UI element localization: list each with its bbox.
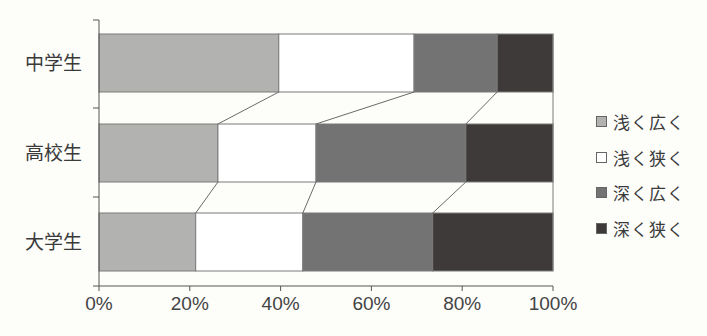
legend-item: 深く狭く [596,211,685,247]
x-tick-label: 100% [529,293,578,314]
bar-segment [497,34,553,92]
bar-segment [316,124,466,182]
legend-item: 深く広く [596,175,685,211]
bar-segment [99,213,196,271]
legend: 浅く広く 浅く狭く 深く広く 深く狭く [596,104,685,246]
bar-segment [433,213,553,271]
bar-segment [303,213,433,271]
x-tick-label: 80% [443,293,481,314]
connector-line [218,92,279,124]
bar-segment [99,124,218,182]
category-labels: 中学生高校生大学生 [25,52,82,253]
legend-label: 浅く広く [613,109,685,134]
legend-label: 浅く狭く [613,145,685,170]
legend-swatch-icon [596,187,607,198]
x-tick-label: 60% [352,293,390,314]
connector-line [466,92,497,124]
x-tick-label: 0% [85,293,113,314]
x-tick-label: 20% [171,293,209,314]
category-label: 中学生 [25,52,82,74]
bars-group [99,34,553,271]
category-label: 高校生 [25,142,82,164]
x-tick-labels: 0%20%40%60%80%100% [85,293,577,314]
legend-label: 深く広く [613,180,685,205]
legend-item: 浅く狭く [596,140,685,176]
bar-segment [218,124,316,182]
connector-line [316,92,414,124]
legend-item: 浅く広く [596,104,685,140]
legend-label: 深く狭く [613,216,685,241]
bar-segment [414,34,497,92]
connector-line [303,182,316,213]
legend-swatch-icon [596,116,607,127]
connector-line [196,182,218,213]
x-tick-label: 40% [262,293,300,314]
bar-segment [466,124,553,182]
connector-line [433,182,466,213]
category-label: 大学生 [25,231,82,253]
legend-swatch-icon [596,152,607,163]
bar-segment [196,213,303,271]
bar-segment [279,34,414,92]
bar-segment [99,34,279,92]
legend-swatch-icon [596,223,607,234]
